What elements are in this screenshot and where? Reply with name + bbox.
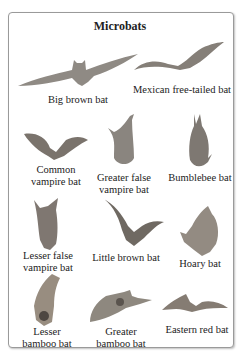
little-brown-bat-label: Little brown bat (88, 252, 164, 264)
bumblebee-bat-image (182, 112, 216, 168)
greater-bamboo-bat-image (88, 288, 154, 324)
lesser-bamboo-bat-label: Lesserbamboo bat (14, 326, 80, 350)
greater-bamboo-bat-label: Greaterbamboo bat (86, 326, 156, 350)
eastern-red-bat-label: Eastern red bat (160, 324, 234, 336)
lesser-bamboo-bat-image (30, 272, 62, 328)
mexican-free-tailed-bat-label: Mexican free-tailed bat (128, 84, 236, 96)
eastern-red-bat-image (160, 292, 230, 314)
little-brown-bat-image (100, 196, 166, 248)
lesser-false-vampire-bat-label: Lesser falsevampire bat (18, 250, 78, 274)
common-vampire-bat-image (20, 130, 90, 162)
common-vampire-bat-label: Commonvampire bat (18, 164, 94, 188)
big-brown-bat-label: Big brown bat (28, 94, 128, 106)
greater-false-vampire-bat-image (104, 110, 140, 168)
figure-title: Microbats (0, 19, 240, 34)
big-brown-bat-image (16, 52, 140, 88)
hoary-bat-image (178, 204, 222, 256)
greater-false-vampire-bat-label: Greater falsevampire bat (90, 172, 158, 196)
mexican-free-tailed-bat-image (130, 40, 225, 74)
lesser-false-vampire-bat-image (32, 196, 62, 250)
hoary-bat-label: Hoary bat (172, 258, 228, 270)
bumblebee-bat-label: Bumblebee bat (166, 172, 234, 184)
